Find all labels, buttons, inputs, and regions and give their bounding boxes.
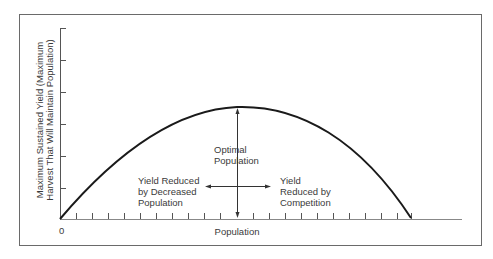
optimal-label-line2: Population bbox=[214, 155, 259, 166]
right-annotation-line2: Reduced by bbox=[280, 186, 331, 197]
origin-label: 0 bbox=[59, 225, 64, 236]
optimal-label-line1: Optimal bbox=[214, 144, 247, 155]
left-annotation-line3: Population bbox=[138, 197, 183, 208]
right-annotation-line1: Yield bbox=[280, 175, 301, 186]
yield-curve-diagram: Maximum Sustained Yield (Maximum Harvest… bbox=[0, 0, 493, 259]
y-axis bbox=[60, 28, 66, 220]
figure-frame bbox=[20, 15, 482, 246]
x-axis bbox=[60, 213, 462, 220]
x-axis-label: Population bbox=[215, 226, 260, 237]
y-axis-label-line2: Harvest That Will Maintain Population) bbox=[44, 39, 55, 200]
left-annotation-line2: by Decreased bbox=[138, 186, 197, 197]
right-annotation-line3: Competition bbox=[280, 197, 331, 208]
left-annotation-line1: Yield Reduced bbox=[138, 175, 199, 186]
